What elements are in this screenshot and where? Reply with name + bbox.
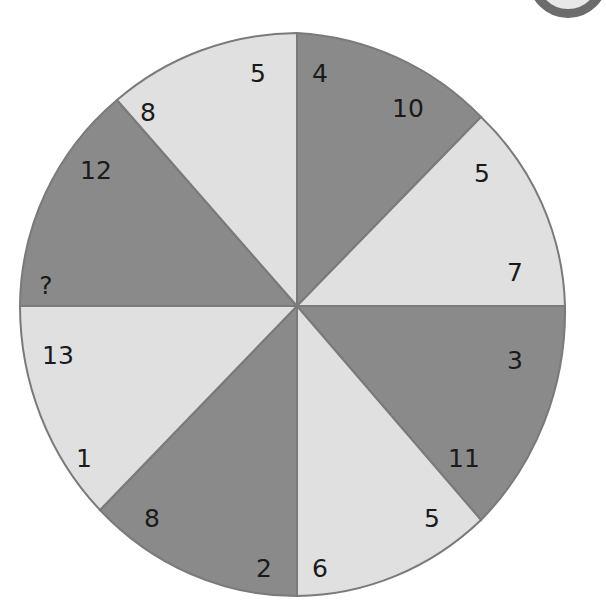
number-label: 8 (144, 506, 160, 531)
number-label: 5 (424, 506, 440, 531)
number-label: 3 (507, 348, 523, 373)
number-label: 5 (250, 61, 266, 86)
number-label: 4 (312, 61, 328, 86)
number-label: 10 (392, 96, 424, 121)
number-label: 11 (448, 446, 480, 471)
number-label: 5 (474, 161, 490, 186)
number-label: 13 (42, 343, 74, 368)
number-label: 1 (76, 446, 92, 471)
number-label: 2 (256, 556, 272, 581)
number-label: 6 (312, 556, 328, 581)
number-label: 12 (80, 158, 112, 183)
number-label: 7 (507, 260, 523, 285)
unknown-number-label: ? (39, 273, 52, 298)
number-label: 8 (140, 100, 156, 125)
